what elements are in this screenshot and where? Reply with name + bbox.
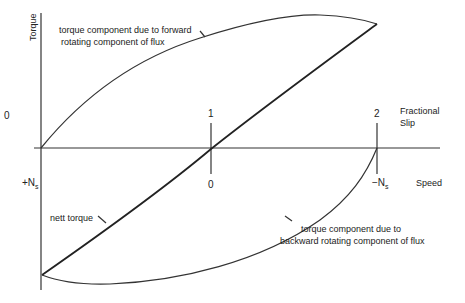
speed-zero-label: 0 <box>208 179 214 190</box>
fractional-label-2: Slip <box>400 118 415 128</box>
slip-2-label: 2 <box>374 108 380 119</box>
backward-label-2: backward rotating component of flux <box>280 236 425 246</box>
torque-zero-label: 0 <box>4 110 10 121</box>
minus-ns-label: −Ns <box>372 177 389 190</box>
forward-leader <box>200 31 205 37</box>
nett-label: nett torque <box>50 213 93 223</box>
nett-leader <box>98 216 106 223</box>
y-axis-label: Torque <box>28 13 38 41</box>
plus-ns-label: +Ns <box>22 177 39 190</box>
slip-1-label: 1 <box>208 108 214 119</box>
backward-leader <box>285 216 292 221</box>
backward-label-1: torque component due to <box>301 224 401 234</box>
torque-slip-diagram: Torque 0 1 2 0 Fractional Slip Speed +Ns… <box>0 0 465 303</box>
fractional-label-1: Fractional <box>400 106 440 116</box>
forward-label-2: rotating component of flux <box>61 37 165 47</box>
forward-label-1: torque component due to forward <box>59 25 192 35</box>
speed-label: Speed <box>416 178 442 188</box>
